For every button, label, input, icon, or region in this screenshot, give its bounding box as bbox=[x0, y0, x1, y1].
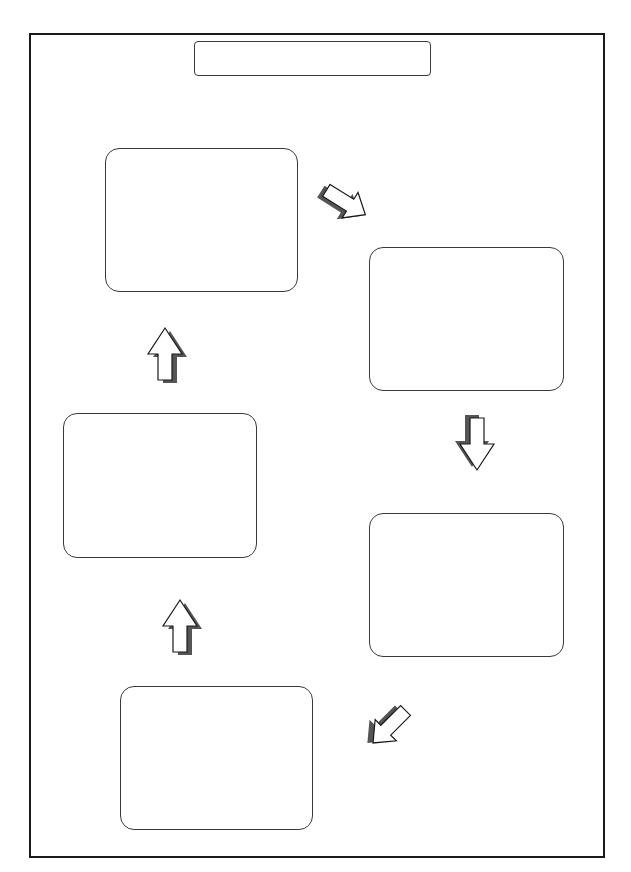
arrow-up-icon bbox=[140, 326, 190, 388]
title-box bbox=[194, 41, 431, 76]
step-box-2 bbox=[369, 247, 564, 391]
step-box-3 bbox=[369, 513, 564, 657]
step-box-4 bbox=[120, 686, 313, 830]
arrow-down-right-icon bbox=[310, 178, 380, 228]
step-box-5 bbox=[63, 413, 257, 558]
arrow-down-icon bbox=[452, 412, 502, 474]
step-box-1 bbox=[105, 148, 298, 292]
arrow-up-icon bbox=[155, 598, 205, 660]
arrow-down-left-icon bbox=[360, 696, 420, 756]
